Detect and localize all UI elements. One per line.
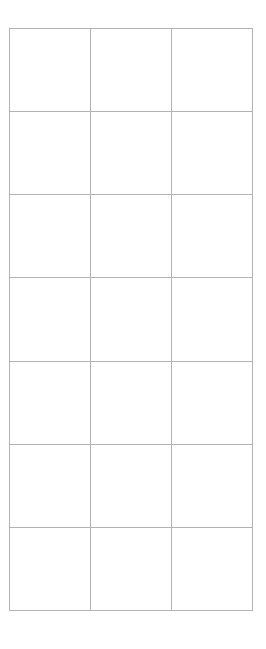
table-cell[interactable]	[91, 29, 172, 112]
table-cell-text	[10, 528, 90, 532]
table-cell[interactable]	[172, 29, 253, 112]
table-cell[interactable]	[10, 195, 91, 278]
table-cell[interactable]	[91, 361, 172, 444]
table-cell[interactable]	[172, 112, 253, 195]
table-cell-text	[172, 362, 252, 366]
table-cell[interactable]	[91, 195, 172, 278]
table-cell[interactable]	[172, 361, 253, 444]
table-cell[interactable]	[172, 195, 253, 278]
table-cell-text	[91, 195, 171, 199]
table-cell-text	[10, 362, 90, 366]
table-cell[interactable]	[91, 112, 172, 195]
table-row	[10, 112, 253, 195]
table-cell-text	[10, 29, 90, 33]
table-cell-text	[172, 29, 252, 33]
table-cell[interactable]	[172, 444, 253, 527]
table-cell[interactable]	[10, 527, 91, 610]
table-row	[10, 278, 253, 361]
table-cell-text	[172, 195, 252, 199]
table-row	[10, 195, 253, 278]
table-cell[interactable]	[91, 278, 172, 361]
table-cell-text	[172, 112, 252, 116]
table-body	[10, 29, 253, 611]
table-cell[interactable]	[91, 527, 172, 610]
table-row	[10, 444, 253, 527]
table-cell[interactable]	[10, 361, 91, 444]
table-cell-text	[10, 445, 90, 449]
table-cell-text	[91, 528, 171, 532]
table-cell-text	[10, 195, 90, 199]
table-cell-text	[91, 112, 171, 116]
grid-table	[9, 28, 253, 611]
table-cell-text	[91, 362, 171, 366]
table-cell[interactable]	[10, 278, 91, 361]
table-row	[10, 527, 253, 610]
table-cell[interactable]	[10, 444, 91, 527]
table-row	[10, 29, 253, 112]
table-cell-text	[172, 445, 252, 449]
table-cell[interactable]	[172, 527, 253, 610]
table-cell[interactable]	[91, 444, 172, 527]
table-cell-text	[172, 278, 252, 282]
table-cell-text	[91, 445, 171, 449]
table-cell[interactable]	[10, 29, 91, 112]
table-cell[interactable]	[10, 112, 91, 195]
table-cell[interactable]	[172, 278, 253, 361]
table-cell-text	[91, 29, 171, 33]
table-row	[10, 361, 253, 444]
table-cell-text	[172, 528, 252, 532]
table-cell-text	[10, 278, 90, 282]
table-cell-text	[10, 112, 90, 116]
table-cell-text	[91, 278, 171, 282]
page-root	[0, 0, 266, 649]
